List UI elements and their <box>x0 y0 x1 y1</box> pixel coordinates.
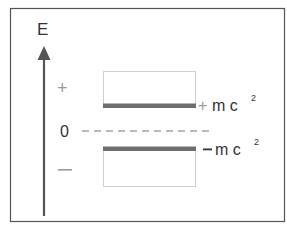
diagram-frame <box>11 9 285 222</box>
positive-energy-band-box <box>104 72 196 107</box>
lower-level-superscript: 2 <box>254 137 259 147</box>
lower-level-sign <box>203 149 212 151</box>
positive-region-symbol: + <box>57 78 68 98</box>
lower-level-text: m c <box>215 141 241 158</box>
negative-energy-level-bar <box>103 147 196 152</box>
upper-level-text: m c <box>212 97 238 114</box>
positive-energy-level-bar <box>103 104 196 109</box>
upper-level-superscript: 2 <box>251 93 256 103</box>
axis-label-e: E <box>37 20 48 39</box>
zero-label: 0 <box>60 123 69 140</box>
upper-level-sign: + <box>198 97 207 114</box>
negative-region-symbol <box>58 169 72 171</box>
energy-level-diagram: E + 0 + m c 2 m c 2 <box>0 0 287 231</box>
negative-energy-band-box <box>104 149 196 187</box>
